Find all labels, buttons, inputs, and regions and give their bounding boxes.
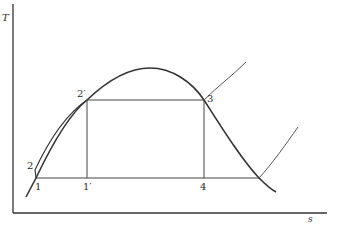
compression-line-2-2p bbox=[35, 100, 87, 170]
ts-diagram: T s 1 1′ 2 2′ 3 4 bbox=[0, 0, 338, 232]
point-label-4: 4 bbox=[200, 181, 206, 192]
point-label-1: 1 bbox=[35, 181, 41, 192]
point-label-3: 3 bbox=[207, 93, 213, 104]
y-axis-label: T bbox=[2, 12, 10, 23]
point-label-1-prime: 1′ bbox=[83, 181, 92, 192]
isobar-lower bbox=[259, 127, 298, 178]
segment-1-2 bbox=[35, 170, 36, 178]
point-label-2-prime: 2′ bbox=[77, 88, 86, 99]
x-axis-label: s bbox=[308, 214, 313, 224]
point-label-2: 2 bbox=[27, 160, 33, 171]
